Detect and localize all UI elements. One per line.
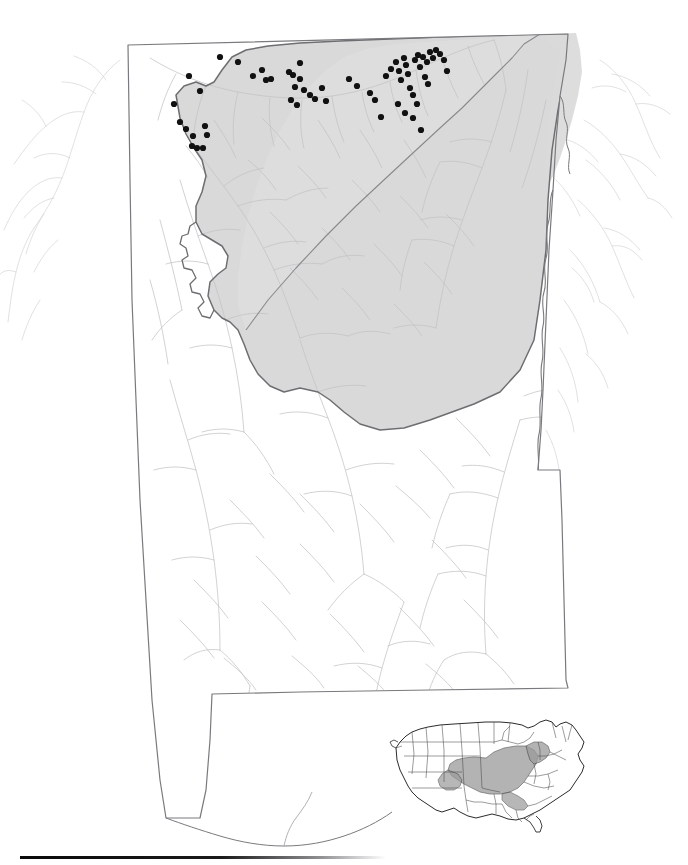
occurrence-dot bbox=[417, 64, 423, 70]
occurrence-dot bbox=[197, 88, 203, 94]
occurrence-dot bbox=[395, 101, 401, 107]
occurrence-dot bbox=[183, 126, 189, 132]
occurrence-dot bbox=[259, 67, 265, 73]
occurrence-dot bbox=[372, 97, 378, 103]
occurrence-dot bbox=[378, 114, 384, 120]
occurrence-dot bbox=[396, 68, 402, 74]
occurrence-dot bbox=[398, 77, 404, 83]
occurrence-dot bbox=[414, 101, 420, 107]
occurrence-dot bbox=[410, 115, 416, 121]
occurrence-dot bbox=[420, 54, 426, 60]
occurrence-dot bbox=[171, 101, 177, 107]
occurrence-dot bbox=[424, 59, 430, 65]
occurrence-dot bbox=[186, 73, 192, 79]
occurrence-dot bbox=[202, 123, 208, 129]
occurrence-dot bbox=[407, 85, 413, 91]
occurrence-dot bbox=[425, 81, 431, 87]
occurrence-dot bbox=[204, 132, 210, 138]
occurrence-dot bbox=[323, 98, 329, 104]
occurrence-dot bbox=[422, 74, 428, 80]
occurrence-dot bbox=[430, 55, 436, 61]
occurrence-dot bbox=[403, 62, 409, 68]
occurrence-dot bbox=[388, 66, 394, 72]
occurrence-dot bbox=[346, 76, 352, 82]
occurrence-dot bbox=[418, 127, 424, 133]
occurrence-dot bbox=[367, 90, 373, 96]
occurrence-dot bbox=[288, 97, 294, 103]
occurrence-dot bbox=[427, 49, 433, 55]
occurrence-dot bbox=[235, 59, 241, 65]
occurrence-dot bbox=[410, 92, 416, 98]
occurrence-dot bbox=[319, 85, 325, 91]
occurrence-dot bbox=[393, 59, 399, 65]
occurrence-dot bbox=[190, 133, 196, 139]
occurrence-dot bbox=[307, 92, 313, 98]
occurrence-dot bbox=[294, 102, 300, 108]
occurrence-dot bbox=[312, 96, 318, 102]
occurrence-dot bbox=[297, 60, 303, 66]
occurrence-dot bbox=[250, 73, 256, 79]
occurrence-dot bbox=[437, 51, 443, 57]
occurrence-dot bbox=[200, 145, 206, 151]
occurrence-dot bbox=[177, 119, 183, 125]
occurrence-dot bbox=[292, 84, 298, 90]
occurrence-dot bbox=[194, 145, 200, 151]
occurrence-dot bbox=[354, 83, 360, 89]
distribution-figure: Alabama bbox=[0, 0, 688, 865]
bottom-divider-rule bbox=[20, 856, 386, 859]
occurrence-dot bbox=[301, 87, 307, 93]
inset-florida bbox=[524, 816, 542, 832]
occurrence-dot bbox=[405, 71, 411, 77]
united-states-range-inset bbox=[382, 712, 598, 834]
occurrence-dot bbox=[290, 72, 296, 78]
occurrence-dot bbox=[383, 73, 389, 79]
occurrence-dot bbox=[401, 55, 407, 61]
occurrence-dot bbox=[402, 110, 408, 116]
occurrence-dot bbox=[217, 54, 223, 60]
occurrence-dot bbox=[441, 57, 447, 63]
occurrence-dot bbox=[268, 76, 274, 82]
occurrence-dot bbox=[297, 76, 303, 82]
occurrence-dot bbox=[444, 68, 450, 74]
